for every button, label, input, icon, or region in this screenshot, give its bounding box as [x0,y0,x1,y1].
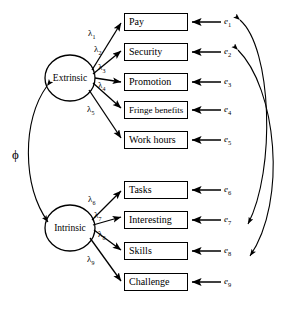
loading-label-lambda6: λ6 [88,194,95,206]
observed-box-fringe-benefits[interactable]: Fringe benefits [124,101,188,119]
loading-label-lambda4: λ4 [98,80,105,92]
latent-factor-label-extrinsic: Extrinsic [45,73,95,83]
loading-label-lambda8: λ8 [98,229,105,241]
loading-label-lambda1: λ1 [88,28,95,40]
observed-box-promotion[interactable]: Promotion [124,73,188,91]
sem-path-diagram: Extrinsic Intrinsic Pay Security Promoti… [0,0,297,316]
observed-label-fringe-benefits: Fringe benefits [125,106,183,115]
observed-label-interesting: Interesting [125,215,172,225]
factor-covariance-label-phi: ϕ [12,147,19,163]
error-label-e4: e4 [224,104,231,116]
error-label-e2: e2 [224,46,231,58]
observed-label-pay: Pay [125,17,144,27]
observed-box-pay[interactable]: Pay [124,13,188,31]
observed-box-tasks[interactable]: Tasks [124,181,188,199]
error-label-e9: e9 [224,276,231,288]
observed-box-work-hours[interactable]: Work hours [124,131,188,149]
observed-box-challenge[interactable]: Challenge [124,273,188,291]
error-correlation-arc-e1-e7 [240,20,267,224]
observed-label-work-hours: Work hours [125,135,176,145]
observed-box-skills[interactable]: Skills [124,242,188,260]
error-label-e7: e7 [224,214,231,226]
observed-label-promotion: Promotion [125,77,171,87]
error-label-e6: e6 [224,184,231,196]
loading-label-lambda3: λ3 [98,62,105,74]
error-label-e8: e8 [224,245,231,257]
error-label-e3: e3 [224,76,231,88]
observed-label-skills: Skills [125,246,152,256]
error-correlation-arc-e2-e8 [238,50,273,256]
factor-covariance-arc-phi [28,86,48,222]
observed-box-interesting[interactable]: Interesting [124,211,188,229]
observed-label-tasks: Tasks [125,185,152,195]
loading-label-lambda7: λ7 [94,210,101,222]
error-label-e5: e5 [224,134,231,146]
latent-factor-label-intrinsic: Intrinsic [45,223,95,233]
loading-label-lambda9: λ9 [87,254,94,266]
loading-label-lambda2: λ2 [94,44,101,56]
loading-arrow-intrinsic-challenge [90,238,121,281]
error-label-e1: e1 [224,16,231,28]
observed-label-challenge: Challenge [125,277,170,287]
observed-label-security: Security [125,47,162,57]
observed-box-security[interactable]: Security [124,43,188,61]
loading-label-lambda5: λ5 [87,104,94,116]
